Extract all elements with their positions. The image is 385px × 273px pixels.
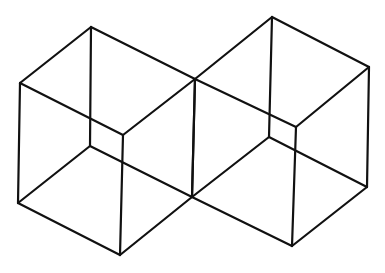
cube-edge-bottom-right-to-bottom-front	[120, 197, 192, 255]
cube-edge-top-front-to-bottom-front	[120, 135, 123, 255]
cube-edge-bottom-back-to-bottom-right	[269, 137, 367, 187]
cube-edge-top-back-to-bottom-back	[269, 17, 272, 137]
cube-edge-top-front-to-bottom-front	[292, 127, 296, 246]
right-cube	[192, 17, 369, 246]
cube-edge-bottom-right-to-bottom-front	[292, 187, 367, 246]
cube-edge-top-back-to-top-left	[195, 17, 272, 79]
cube-edge-top-back-to-top-right	[272, 17, 369, 67]
cube-edge-top-back-to-top-left	[20, 27, 91, 83]
cube-edge-bottom-left-to-bottom-front	[192, 197, 292, 246]
cube-edge-top-right-to-top-front	[123, 79, 195, 135]
cube-edge-top-left-to-bottom-left	[192, 79, 195, 197]
cube-edge-top-left-to-top-front	[195, 79, 296, 127]
cube-edge-top-back-to-top-right	[91, 27, 195, 79]
cube-edge-bottom-back-to-bottom-right	[90, 146, 192, 197]
cube-edge-top-left-to-bottom-left	[18, 83, 20, 203]
cube-edge-top-left-to-top-front	[20, 83, 123, 135]
left-cube	[18, 27, 195, 255]
cube-edge-top-right-to-bottom-right	[367, 67, 369, 187]
cube-edge-bottom-left-to-bottom-front	[18, 203, 120, 255]
cube-edge-top-back-to-bottom-back	[90, 27, 91, 146]
diagram-canvas: Two adjoining wireframe cubes	[0, 0, 385, 273]
cube-edge-bottom-back-to-bottom-left	[18, 146, 90, 203]
cube-edge-bottom-back-to-bottom-left	[192, 137, 269, 197]
cube-edge-top-right-to-top-front	[296, 67, 369, 127]
wireframe-cubes-figure	[0, 0, 385, 273]
